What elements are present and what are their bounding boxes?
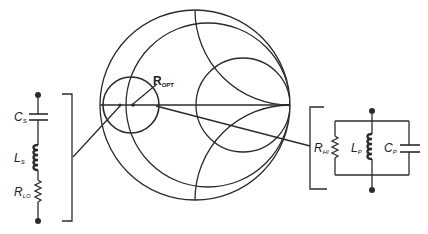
rhi-label: RHI (314, 141, 329, 155)
resistor-rhi (332, 136, 338, 158)
cs-label: CS (14, 110, 27, 124)
leader-line-left (73, 106, 120, 157)
terminal-top-left (35, 92, 41, 98)
left-bracket (62, 94, 72, 221)
cp-label: CP (384, 141, 397, 155)
rlo-label: RLO (14, 185, 31, 199)
inductor-lp (368, 134, 373, 159)
terminal-top-right (369, 108, 375, 114)
r-opt-edge-dot (118, 103, 121, 106)
reactance-arc-lower (195, 105, 385, 234)
smith-chart-diagram: ROPT CS LS RLO (0, 0, 428, 234)
r-opt-label: ROPT (153, 74, 174, 88)
terminal-bottom-right (369, 187, 375, 193)
reactance-arc-upper (195, 0, 385, 105)
smith-chart (73, 0, 385, 234)
r-opt-center-dot (131, 103, 135, 107)
ls-label: LS (14, 151, 25, 165)
resistor-rlo (35, 180, 41, 202)
lp-label: LP (351, 141, 362, 155)
inductor-ls (34, 145, 39, 170)
series-network (29, 94, 72, 221)
terminal-bottom-left (35, 218, 41, 224)
